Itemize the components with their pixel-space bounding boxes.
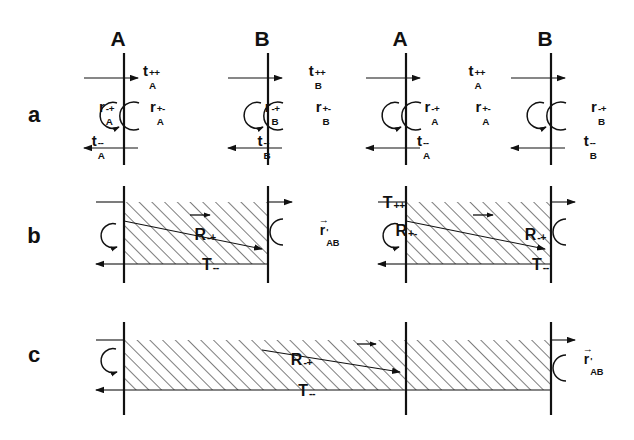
slab-1-T-minus-minus: T-- bbox=[202, 257, 212, 273]
symbol-base: t bbox=[468, 62, 473, 79]
symbol-superscript: ++ bbox=[149, 68, 160, 78]
symbol-superscript: +- bbox=[482, 104, 490, 114]
interface-A-2-t-minus-minus: t--A bbox=[417, 133, 422, 148]
symbol-base: r bbox=[475, 98, 481, 115]
symbol-base: r bbox=[99, 98, 105, 115]
interface-B-1-t-plus-plus: t++B bbox=[309, 63, 314, 78]
symbol-superscript: -- bbox=[590, 138, 596, 148]
vector-arrow-accent: → bbox=[583, 344, 593, 354]
symbol-subscript: B bbox=[263, 151, 270, 161]
symbol-subscript: B bbox=[598, 117, 605, 127]
slab-2-R-minus-plus: R-+ bbox=[525, 227, 537, 243]
symbol-subscript: A bbox=[157, 117, 164, 127]
symbol-superscript: +- bbox=[408, 228, 417, 239]
interface-B-2-r-minus-plus: r-+B bbox=[591, 99, 597, 114]
symbol-subscript: A bbox=[98, 151, 105, 161]
column-header-b-3: B bbox=[537, 28, 552, 49]
symbol-superscript: ++ bbox=[394, 200, 405, 211]
symbol-subscript: B bbox=[315, 81, 322, 91]
symbol-base: R bbox=[396, 222, 408, 239]
slab-wide-T-minus-minus: T-- bbox=[298, 383, 308, 399]
symbol-subscript: A bbox=[474, 81, 481, 91]
symbol-subscript: B bbox=[590, 151, 597, 161]
slab-1-R-plus-minus: R+- bbox=[396, 223, 408, 239]
physics-interface-diagram bbox=[0, 0, 634, 440]
hatched-slab bbox=[124, 340, 551, 390]
vector-arrow-accent: → bbox=[319, 215, 329, 225]
symbol-subscript: AB bbox=[326, 239, 339, 248]
symbol-base: t bbox=[417, 132, 422, 149]
symbol-superscript: -+ bbox=[272, 104, 280, 114]
symbol-base: t bbox=[584, 132, 589, 149]
symbol-base: t bbox=[309, 62, 314, 79]
interface-B-1-r-plus-minus: r+-B bbox=[316, 99, 322, 114]
symbol-superscript: +- bbox=[157, 104, 165, 114]
symbol-base: T bbox=[383, 194, 393, 211]
symbol-base: r bbox=[150, 98, 156, 115]
slab-1-R-minus-plus: R-+ bbox=[195, 227, 207, 243]
row-label-a: a bbox=[28, 104, 40, 126]
symbol-superscript: -- bbox=[423, 138, 429, 148]
symbol-subscript: A bbox=[106, 117, 113, 127]
symbol-superscript: -+ bbox=[303, 357, 312, 368]
column-header-b-1: B bbox=[254, 28, 269, 49]
symbol-subscript: AB bbox=[590, 368, 603, 377]
symbol-base: R bbox=[291, 351, 303, 368]
symbol-base: r bbox=[591, 98, 597, 115]
symbol-superscript: ' bbox=[326, 228, 328, 237]
symbol-base: T bbox=[532, 256, 542, 273]
interface-A-2-r-minus-plus: r-+A bbox=[424, 99, 430, 114]
interface-A-1-r-plus-minus: r+-A bbox=[150, 99, 156, 114]
symbol-base: t bbox=[143, 62, 148, 79]
interface-B-1-t-minus-minus: t--B bbox=[257, 133, 262, 148]
row-label-c: c bbox=[28, 344, 40, 366]
symbol-superscript: +- bbox=[323, 104, 331, 114]
symbol-superscript: -+ bbox=[431, 104, 439, 114]
slab-1-T-plus-plus: T++ bbox=[383, 195, 393, 211]
slab-wide-ray-label: →r'AB bbox=[584, 352, 589, 366]
symbol-superscript: -+ bbox=[207, 232, 216, 243]
symbol-superscript: ++ bbox=[315, 68, 326, 78]
slab-2-T-minus-minus: T-- bbox=[532, 257, 542, 273]
symbol-superscript: -- bbox=[98, 138, 104, 148]
interface-A-2-t-plus-plus: t++A bbox=[468, 63, 473, 78]
slab-wide-R-minus-plus: R-+ bbox=[291, 352, 303, 368]
symbol-base: R bbox=[195, 226, 207, 243]
symbol-base: R bbox=[525, 226, 537, 243]
symbol-base: r bbox=[424, 98, 430, 115]
symbol-subscript: B bbox=[323, 117, 330, 127]
symbol-subscript: B bbox=[272, 117, 279, 127]
interface-A-1-t-plus-plus: t++A bbox=[143, 63, 148, 78]
interface-A-2-r-plus-minus: r+-A bbox=[475, 99, 481, 114]
symbol-base: T bbox=[202, 256, 212, 273]
symbol-subscript: A bbox=[482, 117, 489, 127]
symbol-superscript: -+ bbox=[598, 104, 606, 114]
row-label-b: b bbox=[27, 225, 40, 247]
interface-B-2-t-minus-minus: t--B bbox=[584, 133, 589, 148]
symbol-subscript: A bbox=[149, 81, 156, 91]
interface-A-1-t-minus-minus: t--A bbox=[92, 133, 97, 148]
symbol-superscript: -+ bbox=[537, 232, 546, 243]
column-header-a-0: A bbox=[110, 28, 125, 49]
symbol-base: r bbox=[316, 98, 322, 115]
symbol-superscript: -- bbox=[213, 262, 219, 273]
symbol-superscript: -- bbox=[263, 138, 269, 148]
interface-A-1-r-minus-plus: r-+A bbox=[99, 99, 105, 114]
symbol-base: T bbox=[298, 382, 308, 399]
symbol-superscript: -- bbox=[309, 388, 315, 399]
symbol-subscript: A bbox=[431, 117, 438, 127]
symbol-subscript: A bbox=[423, 151, 430, 161]
slab-1-ray-label: →r'AB bbox=[320, 223, 325, 237]
symbol-base: r bbox=[265, 98, 271, 115]
interface-B-1-r-minus-plus: r-+B bbox=[265, 99, 271, 114]
symbol-superscript: -- bbox=[543, 262, 549, 273]
symbol-superscript: ' bbox=[590, 357, 592, 366]
symbol-base: t bbox=[257, 132, 262, 149]
column-header-a-2: A bbox=[392, 28, 407, 49]
symbol-base: t bbox=[92, 132, 97, 149]
symbol-superscript: ++ bbox=[474, 68, 485, 78]
symbol-superscript: -+ bbox=[106, 104, 114, 114]
